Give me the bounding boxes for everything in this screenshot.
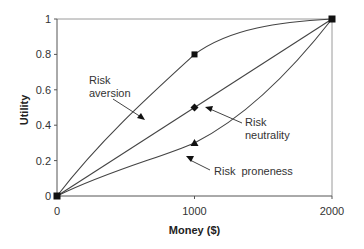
y-tick-label: 0.2 <box>36 155 51 167</box>
y-tick-labels: 0 0.2 0.4 0.6 0.8 1 <box>36 13 51 202</box>
x-tick-label: 1000 <box>182 205 206 217</box>
y-tick-label: 0.4 <box>36 119 51 131</box>
y-tick-label: 1 <box>45 13 51 25</box>
y-tick-label: 0.8 <box>36 48 51 60</box>
diamond-marker <box>191 104 199 112</box>
square-marker <box>192 51 198 57</box>
x-tick-labels: 0 1000 2000 <box>54 205 344 217</box>
markers <box>54 16 336 200</box>
annotation-risk-proneness: Risk proneness <box>186 156 293 177</box>
svg-text:Risk proneness: Risk proneness <box>214 165 293 177</box>
arrow-head-icon <box>205 106 213 112</box>
annotation-risk-aversion: Risk aversion <box>89 74 145 120</box>
utility-chart: 0 0.2 0.4 0.6 0.8 1 0 1000 2000 Money ($… <box>0 0 364 249</box>
svg-text:Risk: Risk <box>89 74 111 86</box>
x-tick-label: 0 <box>54 205 60 217</box>
x-axis-title: Money ($) <box>169 224 221 236</box>
annotation-risk-neutrality: Risk neutrality <box>205 106 290 141</box>
y-tick-label: 0 <box>45 190 51 202</box>
triangle-marker <box>191 139 199 146</box>
arrow-head-icon <box>137 113 145 120</box>
square-marker <box>329 16 336 23</box>
svg-text:neutrality: neutrality <box>245 129 290 141</box>
y-tick-label: 0.6 <box>36 84 51 96</box>
y-axis-title: Utility <box>18 94 30 125</box>
svg-text:Risk: Risk <box>245 116 267 128</box>
x-tick-label: 2000 <box>320 205 344 217</box>
svg-text:aversion: aversion <box>89 87 131 99</box>
square-marker <box>54 193 61 200</box>
